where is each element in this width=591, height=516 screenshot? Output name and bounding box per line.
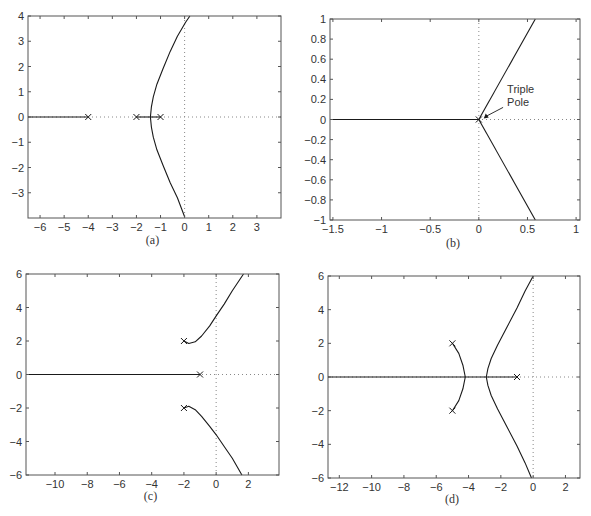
locus-branch: [452, 343, 465, 377]
y-tick-label: 4: [318, 304, 324, 316]
locus-branch: [486, 276, 533, 377]
y-tick-label: 2: [318, 337, 324, 349]
x-tick-label: 2: [562, 481, 568, 493]
y-tick-label: 0: [318, 371, 324, 383]
x-tick-label: −10: [362, 481, 381, 493]
y-tick-label: −6: [311, 472, 324, 484]
y-tick-label: −4: [311, 438, 324, 450]
x-tick-label: −8: [398, 481, 411, 493]
y-tick-label: −2: [311, 405, 324, 417]
locus-branch: [486, 377, 531, 478]
panel-caption: (d): [445, 492, 459, 506]
y-tick-label: 6: [318, 270, 324, 282]
x-tick-label: −2: [495, 481, 508, 493]
x-tick-label: 0: [530, 481, 536, 493]
pole-marker-icon: [449, 340, 455, 346]
x-tick-label: −6: [430, 481, 443, 493]
x-tick-label: −4: [462, 481, 475, 493]
root-locus-plot-d: −12−10−8−6−4−202−6−4−20246(d): [0, 0, 591, 516]
pole-marker-icon: [449, 408, 455, 414]
locus-branch: [452, 377, 465, 411]
plot-area: −12−10−8−6−4−202−6−4−20246(d): [311, 270, 580, 506]
x-tick-label: −12: [330, 481, 349, 493]
figure: −6−5−4−3−2−10123−3−2−101234(a) −1.5−1−0.…: [0, 0, 591, 516]
